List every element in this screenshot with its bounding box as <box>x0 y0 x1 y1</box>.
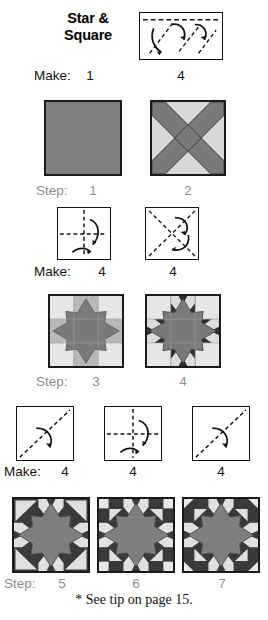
make-label-row3: Make: <box>4 464 41 479</box>
block-final-squares <box>97 497 175 573</box>
pattern-sheet: Star & Square Make: 1 4 Step: <box>0 0 268 620</box>
page-title-line2: Square <box>38 27 138 44</box>
fold-diagram-cross-b <box>104 406 162 461</box>
step-number-2: 2 <box>178 183 198 198</box>
make-count-row1-2: 4 <box>171 68 191 83</box>
step-label-row3: Step: <box>4 576 36 591</box>
make-count-row3-2: 4 <box>123 464 143 479</box>
step-label-row2: Step: <box>36 374 68 389</box>
make-count-row3-3: 4 <box>211 464 231 479</box>
block-star-light <box>48 294 124 368</box>
make-count-row2-1: 4 <box>92 264 112 279</box>
page-title: Star & Square <box>38 10 138 44</box>
block-final-triangles <box>182 497 260 573</box>
step-number-4: 4 <box>173 374 193 389</box>
make-count-row1-1: 1 <box>80 68 100 83</box>
step-number-3: 3 <box>86 374 106 389</box>
fold-diagram-cross <box>57 207 111 260</box>
make-count-row2-2: 4 <box>163 264 183 279</box>
page-title-line1: Star & <box>38 10 138 27</box>
step-label-row1: Step: <box>36 183 68 198</box>
step-number-1: 1 <box>83 183 103 198</box>
make-count-row3-1: 4 <box>55 464 75 479</box>
footnote: * See tip on page 15. <box>0 592 268 608</box>
step-number-6: 6 <box>126 576 146 591</box>
fold-diagram-wide-rect <box>139 12 223 60</box>
fold-diagram-diagonal-a <box>16 406 74 461</box>
step-number-7: 7 <box>212 576 232 591</box>
block-star-dark-accent <box>145 294 221 368</box>
fold-diagram-diagonal-c <box>192 406 250 461</box>
make-label-row2: Make: <box>34 264 71 279</box>
block-solid-square <box>44 100 122 176</box>
make-label-row1: Make: <box>34 68 71 83</box>
step-number-5: 5 <box>52 576 72 591</box>
fold-diagram-diagonal-x <box>145 207 199 260</box>
block-final-plain <box>12 497 90 573</box>
block-x-cross <box>150 100 226 176</box>
